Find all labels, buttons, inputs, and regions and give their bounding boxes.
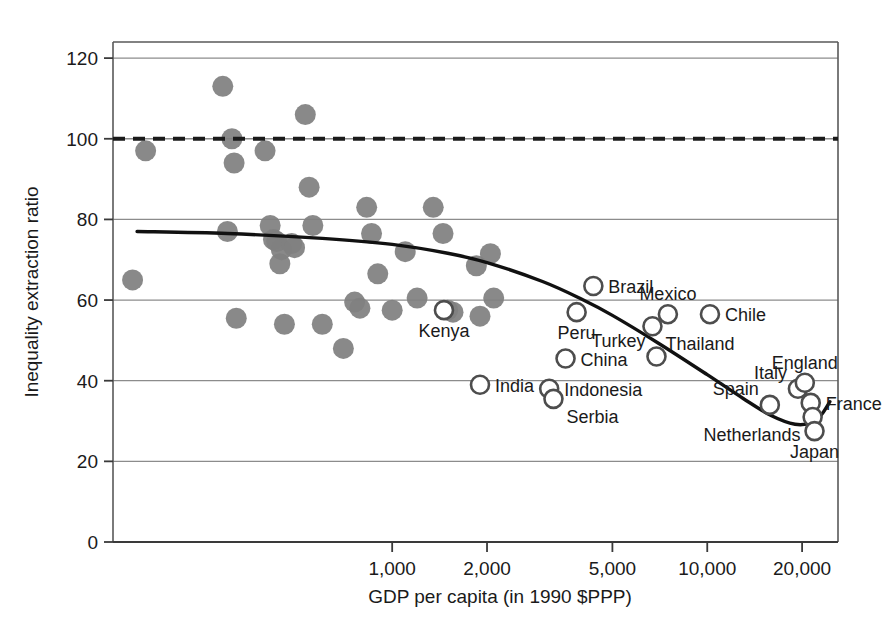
y-tick-label: 80 bbox=[77, 209, 98, 230]
country-label-mexico: Mexico bbox=[639, 284, 696, 304]
data-point-filled bbox=[333, 338, 354, 359]
data-point-filled bbox=[226, 308, 247, 329]
data-point-filled bbox=[356, 197, 377, 218]
country-label-china: China bbox=[581, 350, 629, 370]
inequality-extraction-ratio-scatter-chart: 020406080100120 1,0002,0005,00010,00020,… bbox=[0, 0, 889, 634]
data-point-open bbox=[659, 305, 677, 323]
data-point-filled bbox=[470, 306, 491, 327]
country-label-japan: Japan bbox=[790, 442, 839, 462]
data-point-filled bbox=[483, 288, 504, 309]
data-point-filled bbox=[274, 314, 295, 335]
x-tick-label: 1,000 bbox=[368, 558, 416, 579]
x-tick-label: 10,000 bbox=[678, 558, 736, 579]
data-point-open bbox=[568, 303, 586, 321]
data-point-filled bbox=[312, 314, 333, 335]
data-point-filled bbox=[423, 197, 444, 218]
y-tick-label: 60 bbox=[77, 290, 98, 311]
x-tick-label: 5,000 bbox=[589, 558, 637, 579]
y-tick-label: 40 bbox=[77, 371, 98, 392]
y-tick-label: 0 bbox=[87, 532, 98, 553]
y-axis-title: Inequality extraction ratio bbox=[21, 186, 42, 397]
data-point-filled bbox=[255, 140, 276, 161]
data-point-filled bbox=[217, 221, 238, 242]
country-label-kenya: Kenya bbox=[418, 321, 470, 341]
country-label-turkey: Turkey bbox=[591, 331, 645, 351]
data-point-filled bbox=[284, 237, 305, 258]
data-point-filled bbox=[135, 140, 156, 161]
data-point-filled bbox=[302, 215, 323, 236]
data-point-open bbox=[643, 317, 661, 335]
data-point-filled bbox=[407, 288, 428, 309]
y-tick-label: 100 bbox=[66, 129, 98, 150]
data-point-open bbox=[761, 396, 779, 414]
country-label-peru: Peru bbox=[558, 323, 596, 343]
data-point-open bbox=[701, 305, 719, 323]
data-point-open bbox=[471, 376, 489, 394]
y-tick-label: 120 bbox=[66, 48, 98, 69]
x-tick-label: 2,000 bbox=[463, 558, 511, 579]
data-point-open bbox=[584, 277, 602, 295]
country-label-england: England bbox=[772, 353, 838, 373]
data-point-filled bbox=[122, 269, 143, 290]
country-label-spain: Spain bbox=[713, 379, 759, 399]
country-label-netherlands: Netherlands bbox=[704, 425, 801, 445]
country-label-chile: Chile bbox=[725, 305, 766, 325]
country-label-thailand: Thailand bbox=[665, 334, 734, 354]
data-point-open bbox=[544, 390, 562, 408]
x-axis-title: GDP per capita (in 1990 $PPP) bbox=[368, 586, 632, 607]
x-tick-label: 20,000 bbox=[773, 558, 831, 579]
data-point-filled bbox=[299, 177, 320, 198]
y-tick-label: 20 bbox=[77, 451, 98, 472]
data-point-filled bbox=[382, 300, 403, 321]
data-point-open bbox=[557, 350, 575, 368]
data-point-open bbox=[435, 301, 453, 319]
data-point-filled bbox=[224, 152, 245, 173]
data-point-filled bbox=[212, 76, 233, 97]
data-point-filled bbox=[367, 263, 388, 284]
data-point-filled bbox=[295, 104, 316, 125]
data-point-open bbox=[647, 348, 665, 366]
chart-container: 020406080100120 1,0002,0005,00010,00020,… bbox=[0, 0, 889, 634]
country-label-indonesia: Indonesia bbox=[564, 380, 643, 400]
data-point-filled bbox=[349, 298, 370, 319]
data-point-open bbox=[806, 422, 824, 440]
data-point-filled bbox=[433, 223, 454, 244]
country-label-france: France bbox=[826, 394, 882, 414]
data-point-open bbox=[796, 374, 814, 392]
country-label-india: India bbox=[495, 376, 535, 396]
country-label-serbia: Serbia bbox=[566, 407, 619, 427]
